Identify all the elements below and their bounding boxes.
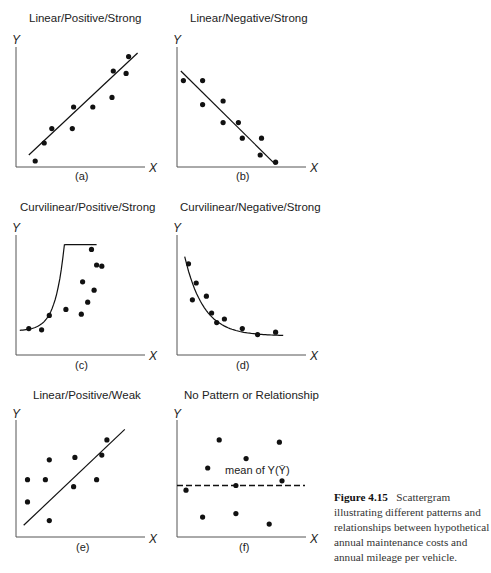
data-point [25, 477, 30, 482]
data-point [71, 484, 76, 489]
scatter-plots [0, 0, 491, 573]
data-point [85, 300, 90, 305]
data-point [72, 455, 77, 460]
data-point [233, 511, 238, 516]
data-point [273, 330, 278, 335]
data-point [70, 126, 75, 131]
data-point [267, 522, 272, 527]
data-point [63, 307, 68, 312]
data-point [209, 310, 214, 315]
data-point [183, 488, 188, 493]
data-point [43, 477, 48, 482]
data-point [244, 456, 249, 461]
data-point [111, 68, 116, 73]
data-point [99, 264, 104, 269]
panel-d-fit-curve [185, 257, 284, 336]
data-point [279, 478, 284, 483]
data-point [109, 95, 114, 100]
data-point [49, 126, 54, 131]
data-point [92, 288, 97, 293]
figure-caption-label: Figure 4.15 [334, 491, 388, 503]
data-point [200, 102, 205, 107]
data-point [99, 453, 104, 458]
data-point [236, 120, 241, 125]
data-point [186, 261, 191, 266]
panel-e-fit-line [24, 429, 125, 525]
data-point [190, 297, 195, 302]
data-point [181, 78, 186, 83]
data-point [79, 312, 84, 317]
data-point [217, 437, 222, 442]
data-point [259, 136, 264, 141]
data-point [126, 54, 131, 59]
panel-c-fit-curve [20, 245, 97, 331]
data-point [47, 457, 52, 462]
data-point [94, 477, 99, 482]
data-point [240, 326, 245, 331]
data-point [89, 247, 94, 252]
panel-b-fit-line [181, 71, 276, 165]
data-point [71, 104, 76, 109]
data-point [222, 316, 227, 321]
data-point [214, 320, 219, 325]
data-point [33, 158, 38, 163]
data-point [47, 518, 52, 523]
data-point [205, 465, 210, 470]
data-point [221, 120, 226, 125]
data-point [42, 140, 47, 145]
data-point [200, 78, 205, 83]
data-point [80, 279, 85, 284]
data-point [233, 483, 238, 488]
data-point [221, 98, 226, 103]
data-point [204, 294, 209, 299]
data-point [90, 104, 95, 109]
data-point [194, 280, 199, 285]
data-point [26, 326, 31, 331]
data-point [39, 327, 44, 332]
figure-caption: Figure 4.15 Scattergram illustrating dif… [334, 490, 490, 565]
data-point [277, 440, 282, 445]
panel-a-fit-line [29, 53, 138, 155]
data-point [273, 160, 278, 165]
data-point [47, 313, 52, 318]
data-point [200, 515, 205, 520]
data-point [240, 136, 245, 141]
data-point [25, 499, 30, 504]
data-point [258, 152, 263, 157]
data-point [104, 437, 109, 442]
data-point [124, 71, 129, 76]
data-point [255, 332, 260, 337]
data-point [94, 262, 99, 267]
